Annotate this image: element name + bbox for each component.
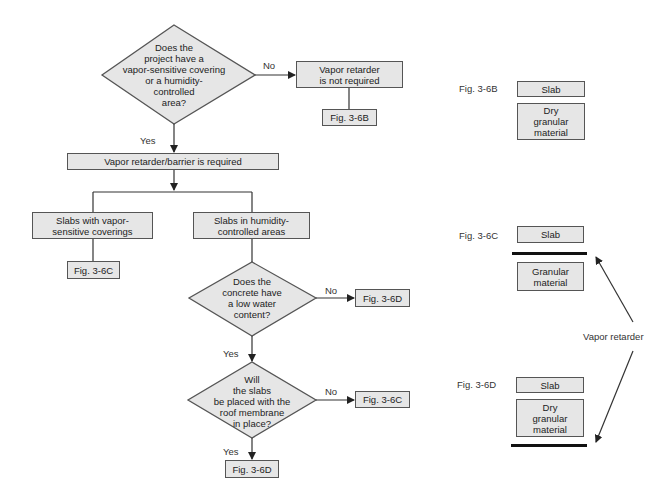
fig-3-6c-base-line: Granular — [532, 266, 569, 277]
fig-3-6d-base: Dry granular material — [516, 399, 584, 437]
branch-left-box: Slabs with vapor- sensitive coverings — [32, 212, 153, 239]
fig-3-6b-label: Fig. 3-6B — [459, 83, 498, 94]
decision-2-text: Does the concrete have a low water conte… — [205, 274, 299, 322]
decision-3-no-label: No — [325, 386, 337, 397]
decision-1-yes-label: Yes — [140, 135, 156, 146]
required-box: Vapor retarder/barrier is required — [67, 153, 279, 170]
decision-3-line: roof membrane — [220, 407, 284, 418]
fig-3-6d-yes-ref-box: Fig. 3-6D — [225, 460, 279, 478]
decision-3-line: the slabs — [233, 385, 271, 396]
decision-3-line: in place? — [233, 418, 271, 429]
decision-3-line: be placed with the — [214, 396, 291, 407]
fig-3-6b-base: Dry granular material — [517, 103, 585, 140]
fig-3-6c-slab: Slab — [517, 226, 584, 243]
fig-3-6b-base-line: material — [534, 127, 568, 138]
decision-2-line: concrete have — [222, 287, 282, 298]
fig-3-6d-vapor-retarder-line — [511, 444, 587, 447]
fig-3-6b-ref-box: Fig. 3-6B — [322, 109, 377, 126]
decision-1-line: vapor-sensitive covering — [123, 64, 225, 75]
fig-3-6c-base-line: material — [534, 277, 568, 288]
decision-3-line: Will — [244, 374, 259, 385]
decision-3-text: Will the slabs be placed with the roof m… — [200, 372, 304, 430]
decision-2-line: Does the — [233, 276, 271, 287]
fig-3-6c-vapor-retarder-line — [512, 252, 587, 255]
fig-3-6d-no-ref-box: Fig. 3-6D — [355, 289, 410, 307]
fig-3-6d-base-line: granular — [533, 413, 568, 424]
decision-3-yes-label: Yes — [223, 446, 239, 457]
fig-3-6c-label: Fig. 3-6C — [459, 230, 498, 241]
decision-2-no-label: No — [325, 285, 337, 296]
branch-left-line: Slabs with vapor- — [56, 215, 129, 226]
fig-3-6d-slab: Slab — [516, 377, 584, 393]
decision-1-line: controlled — [153, 86, 194, 97]
decision-1-line: area? — [162, 97, 186, 108]
branch-right-box: Slabs in humidity- controlled areas — [193, 212, 310, 239]
branch-left-line: sensitive coverings — [52, 226, 132, 237]
branch-right-line: controlled areas — [218, 226, 286, 237]
fig-3-6c-no-ref-box: Fig. 3-6C — [355, 391, 410, 408]
decision-1-line: or a humidity- — [145, 75, 203, 86]
decision-2-yes-label: Yes — [223, 348, 239, 359]
decision-1-line: Does the — [155, 42, 193, 53]
fig-3-6c-left-ref-box: Fig. 3-6C — [67, 261, 120, 279]
fig-3-6d-label: Fig. 3-6D — [457, 379, 496, 390]
fig-3-6d-base-line: material — [533, 424, 567, 435]
fig-3-6b-base-line: Dry — [544, 105, 559, 116]
decision-1-line: project have a — [144, 53, 204, 64]
not-required-line: Vapor retarder — [319, 64, 380, 75]
not-required-box: Vapor retarder is not required — [296, 61, 403, 88]
fig-3-6c-base: Granular material — [517, 262, 584, 291]
branch-right-line: Slabs in humidity- — [214, 215, 289, 226]
fig-3-6b-slab: Slab — [517, 81, 585, 97]
decision-1-no-label: No — [263, 60, 275, 71]
decision-1-text: Does the project have a vapor-sensitive … — [112, 38, 236, 112]
vapor-retarder-label: Vapor retarder — [583, 331, 644, 342]
fig-3-6d-base-line: Dry — [543, 402, 558, 413]
not-required-line: is not required — [319, 75, 379, 86]
fig-3-6b-base-line: granular — [534, 116, 569, 127]
decision-2-line: a low water — [228, 298, 276, 309]
decision-2-line: content? — [234, 309, 270, 320]
